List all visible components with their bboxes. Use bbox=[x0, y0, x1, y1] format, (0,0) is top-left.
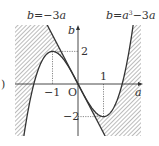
tick-label-a-neg1: −1 bbox=[44, 86, 60, 99]
axis-y-label: b bbox=[68, 24, 75, 37]
curve-equation-label: b=a3−3a bbox=[106, 9, 155, 22]
tick-label-b-neg2: −2 bbox=[63, 110, 79, 123]
origin-label: O bbox=[68, 86, 77, 99]
y-axis-arrow-icon bbox=[76, 25, 80, 30]
cubic-tangent-region-diagram: b=−3a b=a3−3a b a O −1 1 2 −2 ) bbox=[0, 0, 159, 146]
axis-x-label: a bbox=[135, 86, 142, 99]
tick-label-b-2: 2 bbox=[81, 45, 88, 58]
line-equation-label: b=−3a bbox=[27, 9, 66, 22]
tick-label-a-1: 1 bbox=[100, 70, 107, 83]
side-mark: ) bbox=[1, 78, 5, 91]
